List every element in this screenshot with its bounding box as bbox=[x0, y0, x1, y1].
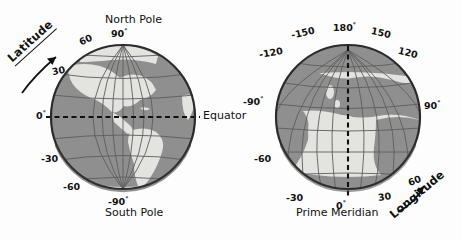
south-pole-label: South Pole bbox=[105, 207, 163, 218]
lat-tick-0: 0° bbox=[36, 110, 46, 121]
lon-tick-0: 0° bbox=[336, 200, 346, 211]
lat-tick-neg30: -30 bbox=[41, 154, 58, 164]
lon-tick-90: 90° bbox=[424, 100, 440, 111]
lon-tick-neg30: -30 bbox=[286, 193, 303, 203]
lat-tick-neg90: -90° bbox=[108, 196, 128, 207]
lat-tick-30: 30 bbox=[51, 65, 66, 77]
equator-label: Equator bbox=[203, 110, 246, 121]
north-pole-label: North Pole bbox=[105, 14, 162, 25]
lon-tick-neg60: -60 bbox=[254, 154, 271, 164]
globes-figure: North Pole South Pole Equator Latitude 9… bbox=[0, 0, 461, 241]
lon-tick-180: 180° bbox=[333, 22, 356, 33]
longitude-globe bbox=[274, 38, 424, 213]
lon-tick-neg90: -90° bbox=[243, 96, 263, 107]
lat-tick-neg60: -60 bbox=[63, 182, 80, 192]
lat-tick-90: 90° bbox=[111, 28, 127, 39]
island-shape-c bbox=[388, 123, 400, 133]
lon-tick-30: 30 bbox=[377, 191, 391, 202]
